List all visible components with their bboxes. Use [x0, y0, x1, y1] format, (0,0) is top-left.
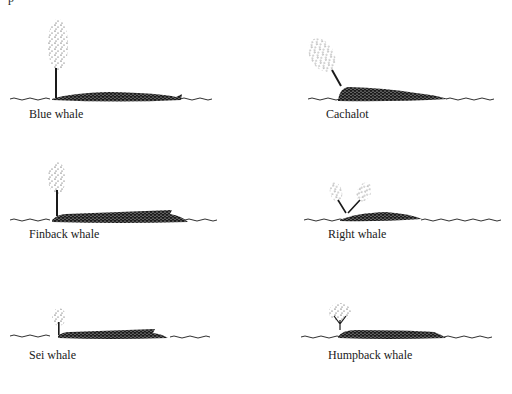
cachalot-panel: Cachalot: [256, 0, 512, 130]
sei-whale-panel: Sei whale: [0, 260, 256, 394]
blue-whale-panel: Blue whale: [0, 0, 256, 130]
finback-whale-panel: Finback whale: [0, 130, 256, 260]
whale-label: Finback whale: [29, 227, 99, 242]
cachalot-illustration: [256, 0, 512, 130]
whale-label: Cachalot: [326, 107, 369, 122]
whale-label: Humpback whale: [328, 348, 412, 363]
sei-whale-illustration: [0, 260, 256, 394]
whale-label: Right whale: [328, 227, 386, 242]
humpback-whale-illustration: [256, 260, 512, 394]
whale-label: Sei whale: [29, 348, 76, 363]
whale-label: Blue whale: [29, 107, 83, 122]
humpback-whale-panel: Humpback whale: [256, 260, 512, 394]
right-whale-panel: Right whale: [256, 130, 512, 260]
